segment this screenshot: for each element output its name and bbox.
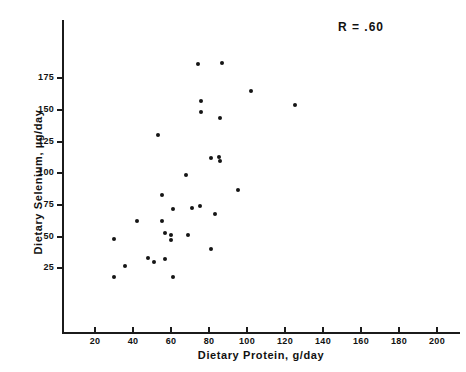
data-point (196, 62, 200, 66)
data-point (169, 238, 173, 242)
correlation-annotation: R = .60 (338, 20, 384, 34)
data-point (112, 237, 116, 241)
data-point (213, 212, 217, 216)
data-point (190, 206, 194, 210)
data-point (163, 231, 167, 235)
data-point (171, 207, 175, 211)
data-point (249, 89, 253, 93)
data-point-layer (0, 0, 466, 372)
data-point (152, 260, 156, 264)
data-point (184, 173, 188, 177)
data-point (218, 159, 222, 163)
data-point (186, 233, 190, 237)
data-point (209, 156, 213, 160)
scatter-plot-figure: 255075100125150175 204060801001201401601… (0, 0, 466, 372)
data-point (112, 275, 116, 279)
data-point (160, 219, 164, 223)
data-point (199, 110, 203, 114)
data-point (123, 264, 127, 268)
x-axis-title: Dietary Protein, g/day (62, 349, 460, 361)
data-point (198, 204, 202, 208)
data-point (160, 193, 164, 197)
data-point (220, 61, 224, 65)
data-point (293, 103, 297, 107)
data-point (156, 133, 160, 137)
data-point (209, 247, 213, 251)
data-point (199, 99, 203, 103)
data-point (236, 188, 240, 192)
data-point (163, 257, 167, 261)
data-point (218, 116, 222, 120)
data-point (135, 219, 139, 223)
data-point (169, 233, 173, 237)
data-point (171, 275, 175, 279)
data-point (146, 256, 150, 260)
y-axis-title: Dietary Selenium, µg/day (32, 82, 44, 282)
